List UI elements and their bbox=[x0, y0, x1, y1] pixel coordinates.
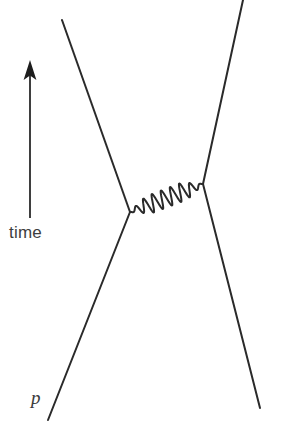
feynman-diagram-figure: time p bbox=[0, 0, 299, 446]
incoming-left-fermion-line bbox=[48, 212, 130, 420]
outgoing-left-fermion-line bbox=[62, 20, 130, 212]
incoming-particle-label: p bbox=[31, 388, 41, 407]
outgoing-right-fermion-line bbox=[203, 0, 243, 184]
feynman-diagram-canvas bbox=[0, 0, 299, 446]
exchange-boson-wavy-line bbox=[130, 183, 203, 213]
time-axis-arrow bbox=[24, 60, 37, 218]
time-axis-label: time bbox=[9, 224, 42, 241]
incoming-right-fermion-line bbox=[203, 184, 260, 408]
